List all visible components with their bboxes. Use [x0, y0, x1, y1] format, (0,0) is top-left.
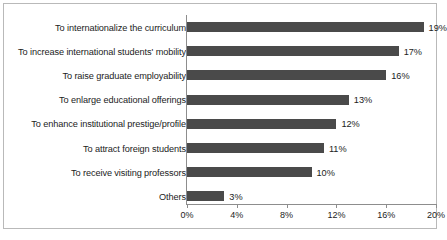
x-axis-tick-label: 4% [230, 210, 243, 220]
bar [187, 70, 386, 80]
category-label: To raise graduate employability [62, 71, 186, 81]
bar [187, 167, 312, 177]
bar-value-label: 11% [329, 144, 347, 154]
x-axis-tick [287, 204, 288, 208]
bar-value-label: 17% [404, 47, 422, 57]
category-label: To internationalize the curriculum [55, 23, 186, 33]
bar [187, 143, 324, 153]
x-axis-tick-label: 16% [377, 210, 395, 220]
bar [187, 119, 336, 129]
x-axis-tick [237, 204, 238, 208]
bar [187, 95, 349, 105]
category-label: To attract foreign students [83, 144, 186, 154]
x-axis-tick [187, 204, 188, 208]
x-axis-tick-label: 0% [180, 210, 193, 220]
bar-value-label: 19% [429, 23, 447, 33]
category-label: To receive visiting professors [71, 168, 186, 178]
bar-value-label: 12% [341, 119, 359, 129]
y-axis-line [186, 15, 187, 204]
figure-caption [5, 231, 435, 240]
bar [187, 22, 424, 32]
bar-value-label: 3% [229, 192, 242, 202]
plot-area: To internationalize the curriculumTo inc… [4, 4, 438, 230]
x-axis-line [186, 204, 436, 205]
category-label: To enhance institutional prestige/profil… [31, 119, 186, 129]
category-label: To enlarge educational offerings [59, 95, 186, 105]
bar-value-label: 16% [391, 71, 409, 81]
chart-frame: To internationalize the curriculumTo inc… [3, 3, 437, 229]
category-label: To increase international students' mobi… [18, 47, 186, 57]
category-label: Others [159, 192, 186, 202]
x-axis-tick-label: 20% [427, 210, 445, 220]
bar-value-label: 10% [317, 168, 335, 178]
x-axis-tick-label: 8% [280, 210, 293, 220]
x-axis-tick [336, 204, 337, 208]
x-axis-tick [436, 204, 437, 208]
x-axis-tick-label: 12% [327, 210, 345, 220]
bar-value-label: 13% [354, 95, 372, 105]
bar [187, 191, 224, 201]
x-axis-tick [386, 204, 387, 208]
bar [187, 46, 399, 56]
